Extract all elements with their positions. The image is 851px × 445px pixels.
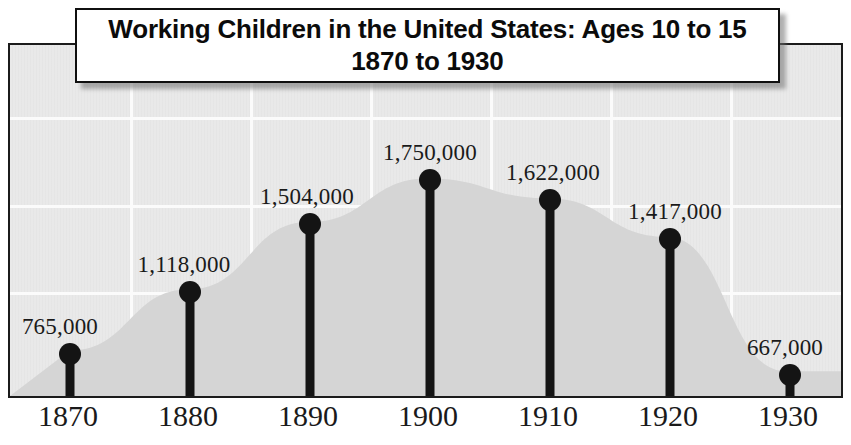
- data-stem-1910: [546, 200, 555, 398]
- plot-area: 765,0001,118,0001,504,0001,750,0001,622,…: [8, 43, 843, 398]
- value-label-1870: 765,000: [22, 314, 98, 340]
- chart-title-line-2: 1870 to 1930: [351, 46, 503, 78]
- value-label-1890: 1,504,000: [260, 184, 354, 210]
- x-tick-label-1900: 1900: [398, 399, 458, 433]
- data-stem-1920: [666, 239, 675, 398]
- data-point-1910: [539, 189, 561, 211]
- data-point-1920: [659, 228, 681, 250]
- value-label-1900: 1,750,000: [383, 140, 477, 166]
- x-axis-labels: 1870188018901900191019201930: [8, 399, 843, 445]
- x-tick-label-1870: 1870: [38, 399, 98, 433]
- value-label-1910: 1,622,000: [506, 160, 600, 186]
- data-stem-1890: [306, 224, 315, 398]
- x-tick-label-1930: 1930: [758, 399, 818, 433]
- value-label-1880: 1,118,000: [138, 252, 231, 278]
- value-label-1920: 1,417,000: [628, 199, 722, 225]
- x-tick-label-1920: 1920: [638, 399, 698, 433]
- data-stem-1900: [426, 180, 435, 398]
- data-stem-1880: [186, 292, 195, 398]
- chart-figure: 765,0001,118,0001,504,0001,750,0001,622,…: [0, 0, 851, 445]
- data-point-1880: [179, 281, 201, 303]
- chart-title-box: Working Children in the United States: A…: [75, 8, 780, 83]
- data-point-1870: [59, 343, 81, 365]
- x-tick-label-1890: 1890: [278, 399, 338, 433]
- data-point-1900: [419, 169, 441, 191]
- x-tick-label-1880: 1880: [158, 399, 218, 433]
- data-point-1890: [299, 213, 321, 235]
- data-point-1930: [779, 364, 801, 386]
- value-label-1930: 667,000: [747, 335, 823, 361]
- x-tick-label-1910: 1910: [518, 399, 578, 433]
- chart-title-line-1: Working Children in the United States: A…: [108, 14, 746, 46]
